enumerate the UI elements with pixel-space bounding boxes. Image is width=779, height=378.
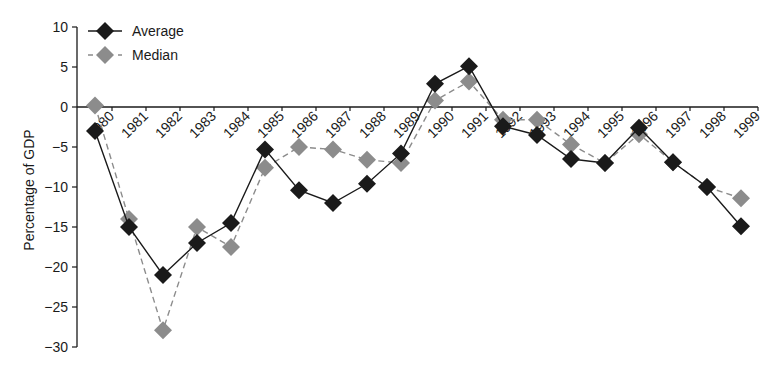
data-point-diamond [324,194,342,212]
data-point-diamond [324,140,342,158]
legend: AverageMedian [88,22,184,64]
data-point-diamond [562,150,580,168]
legend-item-average: Average [88,22,184,40]
x-tick-label: 1998 [696,108,729,141]
legend-item-median: Median [88,46,178,64]
x-tick-label: 1984 [220,108,253,141]
y-tick-label: −5 [52,139,68,155]
x-tick-label: 1995 [594,108,627,141]
data-point-diamond [256,140,274,158]
y-tick-label: 5 [60,59,68,75]
data-point-diamond [222,238,240,256]
data-point-diamond [154,321,172,339]
data-point-diamond [358,151,376,169]
legend-marker-diamond [96,22,114,40]
legend-marker-diamond [96,46,114,64]
x-tick-label: 1997 [662,108,695,141]
x-tick-label: 1991 [458,108,491,141]
legend-label: Median [132,47,178,63]
data-point-diamond [290,181,308,199]
data-point-diamond [290,138,308,156]
y-axis: 1050−5−10−15−20−25−30 [44,19,77,355]
y-axis-label: Percentage of GDP [21,129,37,250]
y-tick-label: −20 [44,259,68,275]
y-tick-label: 10 [52,19,68,35]
y-tick-label: −15 [44,219,68,235]
series-average [86,57,750,284]
x-tick-label: 1983 [186,108,219,141]
x-tick-label: 1999 [730,108,763,141]
data-point-diamond [732,189,750,207]
x-tick-label: 1986 [288,108,321,141]
x-tick-label: 1982 [152,108,185,141]
x-tick-label: 1980 [84,108,117,141]
series-layer [86,57,750,339]
legend-label: Average [132,23,184,39]
x-tick-label: 1989 [390,108,423,141]
y-tick-label: −10 [44,179,68,195]
x-tick-label: 1987 [322,108,355,141]
x-tick-label: 1985 [254,108,287,141]
x-tick-label: 1994 [560,108,593,141]
data-point-diamond [426,75,444,93]
line-chart: 1050−5−10−15−20−25−30 198019811982198319… [0,0,779,378]
x-tick-label: 1981 [118,108,151,141]
y-tick-label: −25 [44,299,68,315]
y-tick-label: −30 [44,339,68,355]
data-point-diamond [188,218,206,236]
data-point-diamond [222,214,240,232]
y-tick-label: 0 [60,99,68,115]
x-axis: 1980198119821983198419851986198719881989… [77,107,763,141]
data-point-diamond [460,57,478,75]
x-tick-label: 1988 [356,108,389,141]
